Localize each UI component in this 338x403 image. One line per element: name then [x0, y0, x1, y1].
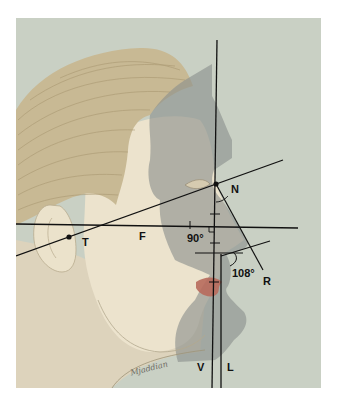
label-v: V: [197, 362, 204, 373]
label-r: R: [263, 276, 271, 287]
point-n: [213, 181, 218, 186]
label-angle-90: 90°: [187, 233, 204, 244]
label-l: L: [227, 362, 234, 373]
profile-illustration: [16, 18, 321, 388]
label-t: T: [82, 237, 89, 248]
label-f: F: [139, 231, 146, 242]
illustration-panel: [16, 18, 321, 388]
point-t: [66, 234, 71, 239]
label-n: N: [231, 184, 239, 195]
label-angle-108: 108°: [232, 268, 255, 279]
